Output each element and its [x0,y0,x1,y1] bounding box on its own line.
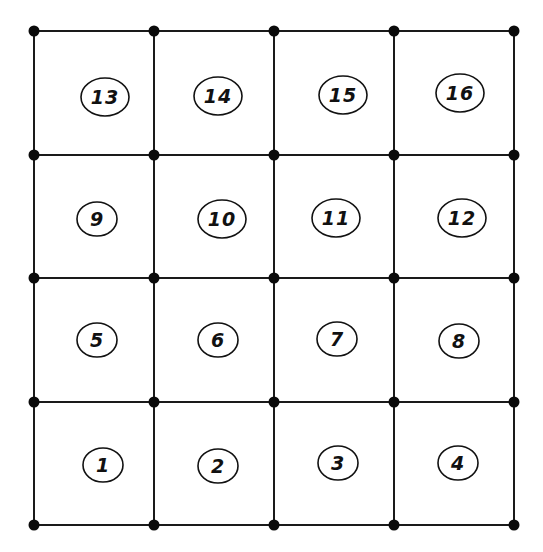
element-4: 4 [438,446,478,480]
node-dot [269,150,280,161]
element-number: 8 [452,330,466,352]
element-number: 11 [322,207,350,229]
element-number: 9 [90,208,104,230]
element-number: 14 [204,85,232,107]
element-number: 3 [331,452,345,474]
node-dot [509,520,520,531]
node-dot [269,397,280,408]
element-16: 16 [436,74,484,112]
element-number: 13 [91,86,119,108]
element-number: 15 [329,84,357,106]
element-7: 7 [317,322,357,356]
element-2: 2 [198,449,238,483]
element-15: 15 [319,76,367,114]
element-1: 1 [83,448,123,482]
element-13: 13 [81,78,129,116]
element-12: 12 [438,199,486,237]
element-6: 6 [198,323,238,357]
node-dot [149,397,160,408]
node-dot [29,520,40,531]
node-dot [29,150,40,161]
node-dot [509,273,520,284]
node-dot [149,520,160,531]
element-3: 3 [318,446,358,480]
node-dot [269,273,280,284]
mesh-diagram: 13141516910111256781234 [0,0,543,552]
element-number: 16 [446,82,474,104]
node-dot [389,520,400,531]
node-dot [509,26,520,37]
element-11: 11 [312,199,360,237]
element-14: 14 [194,77,242,115]
node-dot [149,26,160,37]
element-number: 1 [96,454,110,476]
node-dot [29,397,40,408]
element-number: 2 [211,455,225,477]
node-dot [389,397,400,408]
node-dot [29,26,40,37]
node-dot [29,273,40,284]
element-5: 5 [77,323,117,357]
node-dot [149,150,160,161]
element-number: 5 [90,329,104,351]
element-number: 12 [448,207,476,229]
node-dot [389,150,400,161]
node-dot [269,26,280,37]
node-dot [389,273,400,284]
node-dot [269,520,280,531]
element-10: 10 [198,200,246,238]
node-dot [509,397,520,408]
node-dot [149,273,160,284]
element-number: 4 [450,452,465,474]
element-number: 7 [330,328,344,350]
element-number: 10 [208,208,236,230]
node-dot [389,26,400,37]
element-9: 9 [77,202,117,236]
element-8: 8 [439,324,479,358]
element-number: 6 [211,329,225,351]
node-dot [509,150,520,161]
